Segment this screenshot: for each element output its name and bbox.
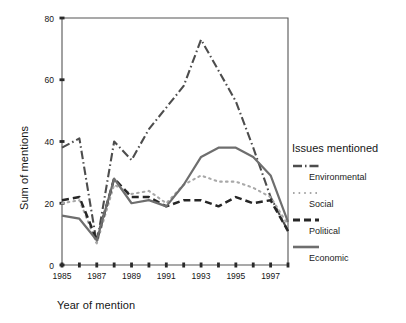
x-axis-title: Year of mention (57, 299, 135, 311)
svg-text:20: 20 (45, 199, 55, 209)
svg-text:1995: 1995 (226, 271, 245, 281)
legend-label-environmental: Environmental (309, 172, 367, 182)
svg-text:0: 0 (49, 261, 54, 271)
legend-label-social: Social (309, 199, 334, 209)
legend-swatch-environmental (293, 162, 319, 170)
svg-text:1993: 1993 (192, 271, 211, 281)
legend-swatch-economic (293, 243, 319, 251)
legend-item-political[interactable]: Political (291, 215, 406, 242)
svg-text:1985: 1985 (53, 271, 72, 281)
svg-text:40: 40 (45, 137, 55, 147)
chart-figure: 0204060801985198719891991199319951997 Su… (0, 0, 406, 323)
svg-text:1987: 1987 (87, 271, 106, 281)
legend-swatch-social (293, 189, 319, 197)
y-axis-title: Sum of mentions (18, 108, 30, 228)
svg-text:1989: 1989 (122, 271, 141, 281)
legend-item-economic[interactable]: Economic (291, 242, 406, 269)
svg-text:1991: 1991 (157, 271, 176, 281)
legend-label-political: Political (309, 226, 340, 236)
chart-legend: Issues mentioned Environmental Social Po… (291, 142, 406, 269)
svg-text:1997: 1997 (261, 271, 280, 281)
legend-label-economic: Economic (309, 253, 349, 263)
svg-text:60: 60 (45, 75, 55, 85)
legend-item-environmental[interactable]: Environmental (291, 161, 406, 188)
svg-text:80: 80 (45, 14, 55, 24)
legend-title: Issues mentioned (292, 142, 406, 154)
legend-item-social[interactable]: Social (291, 188, 406, 215)
legend-swatch-political (293, 216, 319, 224)
